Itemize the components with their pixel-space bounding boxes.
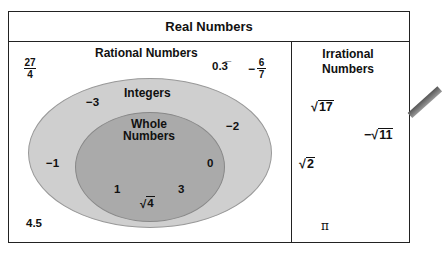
fraction-27-over-4: 27 4: [24, 57, 36, 80]
minus-sign: −: [364, 128, 371, 142]
radicand: 4: [146, 196, 154, 210]
radical: √2: [299, 157, 315, 171]
pencil-decoration: [408, 86, 442, 118]
integer-neg-3: −3: [86, 96, 99, 108]
minus-sign: −: [248, 62, 255, 76]
negative-six-sevenths: − 6 7: [248, 57, 266, 80]
rational-irrational-divider: [291, 42, 292, 242]
radical: √11: [371, 128, 393, 142]
whole-1: 1: [114, 183, 120, 195]
whole-0: 0: [207, 157, 213, 169]
sqrt-17: √17: [311, 100, 334, 114]
radical-sign: √: [311, 100, 318, 114]
decimal-4-5: 4.5: [26, 217, 42, 229]
radicand: 17: [318, 100, 334, 114]
whole-numbers-label: Whole Numbers: [123, 118, 175, 142]
radicand: 2: [306, 157, 315, 171]
denominator: 7: [259, 69, 265, 80]
radical-sign: √: [371, 128, 378, 142]
sqrt-2: √2: [299, 157, 315, 171]
real-numbers-title: Real Numbers: [9, 12, 409, 42]
integer-neg-1: −1: [46, 157, 59, 169]
rational-numbers-label: Rational Numbers: [95, 46, 198, 60]
whole-label-line2: Numbers: [123, 130, 175, 142]
irrational-label-line2: Numbers: [322, 62, 374, 77]
neg-sqrt-11: −√11: [364, 128, 393, 142]
denominator: 4: [27, 69, 33, 80]
radical: √17: [311, 100, 334, 114]
integer-neg-2: −2: [226, 120, 239, 132]
sqrt-4: √4: [140, 196, 155, 210]
whole-3: 3: [178, 183, 184, 195]
irrational-numbers-label: Irrational Numbers: [322, 47, 374, 77]
radicand: 11: [378, 128, 393, 142]
fraction: 6 7: [257, 57, 266, 80]
irrational-label-line1: Irrational: [322, 47, 374, 62]
numerator: 27: [24, 57, 35, 68]
radical-sign: √: [299, 157, 306, 171]
numerator: 6: [259, 57, 265, 68]
repeating-decimal: 0.3̅: [212, 60, 228, 72]
radical: √4: [140, 196, 155, 210]
pi: π: [321, 219, 329, 233]
integers-label: Integers: [124, 86, 171, 100]
